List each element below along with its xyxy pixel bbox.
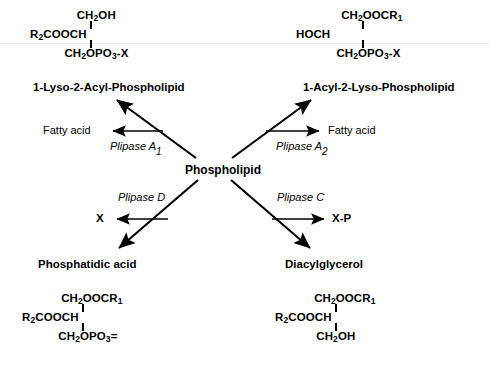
bond-line xyxy=(82,304,84,312)
structure-line-2: HOCH xyxy=(296,29,330,41)
enzyme-label-plipase-c: Plipase C xyxy=(277,192,324,203)
label-phosphatidic-acid: Phosphatidic acid xyxy=(38,259,136,271)
structure-phosphatidic-acid: CH2OOCR1 R2COOCH CH2OPO3= xyxy=(22,293,142,343)
structure-1-lyso-2-acyl-phospholipid: CH2OH R2COOCH CH2OPO3-X xyxy=(30,10,150,60)
label-1-lyso-2-acyl-phospholipid: 1-Lyso-2-Acyl-Phospholipid xyxy=(33,82,185,94)
label-fatty-acid-left: Fatty acid xyxy=(43,125,91,136)
label-fatty-acid-right: Fatty acid xyxy=(328,125,376,136)
structure-line-1: CH2OOCR1 xyxy=(341,10,402,22)
structure-line-2: R2COOCH xyxy=(30,29,87,41)
diagram-canvas: CH2OH R2COOCH CH2OPO3-X 1-Lyso-2-Acyl-Ph… xyxy=(0,0,489,369)
structure-line-3: CH2OH xyxy=(316,331,355,343)
structure-line-1: CH2OH xyxy=(77,10,116,22)
structure-1-acyl-2-lyso-phospholipid: CH2OOCR1 HOCH CH2OPO3-X xyxy=(303,10,421,60)
structure-line-1: CH2OOCR1 xyxy=(61,293,122,305)
bond-line xyxy=(335,304,337,312)
bond-line xyxy=(335,323,337,331)
bond-line xyxy=(362,21,364,29)
label-1-acyl-2-lyso-phospholipid: 1-Acyl-2-Lyso-Phospholipid xyxy=(303,82,455,94)
label-x-p: X-P xyxy=(332,213,351,225)
bond-line xyxy=(90,21,92,29)
structure-line-3: CH2OPO3-X xyxy=(336,48,400,60)
structure-line-2: R2COOCH xyxy=(275,312,332,324)
label-diacylglycerol: Diacylglycerol xyxy=(285,259,363,271)
structure-line-2: R2COOCH xyxy=(22,312,79,324)
structure-line-3: CH2OPO3= xyxy=(58,331,117,343)
label-phospholipid-center: Phospholipid xyxy=(185,164,261,176)
structure-line-1: CH2OOCR1 xyxy=(314,293,375,305)
structure-line-3: CH2OPO3-X xyxy=(64,48,128,60)
structure-diacylglycerol: CH2OOCR1 R2COOCH CH2OH xyxy=(275,293,395,343)
label-x: X xyxy=(96,213,104,225)
enzyme-label-plipase-a2: Plipase A2 xyxy=(276,141,328,152)
enzyme-label-plipase-a1: Plipase A1 xyxy=(110,141,162,152)
enzyme-label-plipase-d: Plipase D xyxy=(118,192,165,203)
